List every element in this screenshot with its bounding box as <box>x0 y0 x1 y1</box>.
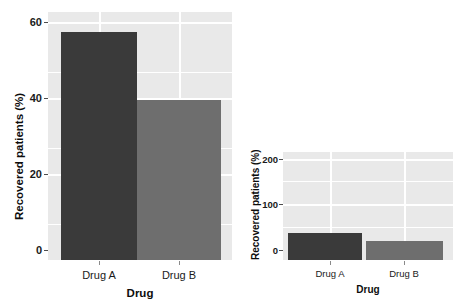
x-tick-mark-left-drug-a <box>99 261 100 265</box>
y-axis-title-left: Recovered patients (%) <box>14 93 26 220</box>
x-tick-mark-right-drug-b <box>404 261 405 265</box>
x-tick-label-right-drug-a: Drug A <box>298 269 362 279</box>
x-tick-mark-left-drug-b <box>179 261 180 265</box>
gridline-major-left-60 <box>48 22 232 24</box>
x-tick-label-left-drug-b: Drug B <box>144 270 214 281</box>
figure-two-bar-charts: Recovered patients (%) 60 40 20 0 <box>0 0 461 305</box>
x-axis-title-right: Drug <box>283 285 453 295</box>
x-tick-mark-right-drug-a <box>330 261 331 265</box>
gridline-minor-right-150 <box>283 181 453 182</box>
plot-panel-left <box>48 12 232 260</box>
gridline-major-right-200 <box>283 159 453 161</box>
gridline-major-right-100 <box>283 204 453 206</box>
plot-panel-right <box>283 152 453 260</box>
y-tick-label-left-40: 40 <box>18 93 42 104</box>
x-tick-label-left-drug-a: Drug A <box>64 270 134 281</box>
bar-right-drug-a[interactable] <box>288 233 362 260</box>
bar-chart-left: Recovered patients (%) 60 40 20 0 <box>0 0 240 305</box>
y-tick-label-right-200: 200 <box>254 155 278 165</box>
x-tick-label-right-drug-b: Drug B <box>372 269 436 279</box>
y-tick-label-right-0: 0 <box>254 246 278 256</box>
y-tick-label-left-0: 0 <box>18 245 42 256</box>
gridline-minor-right-50 <box>283 227 453 228</box>
bar-left-drug-a[interactable] <box>61 32 137 260</box>
y-tick-label-right-100: 100 <box>254 200 278 210</box>
y-tick-label-left-20: 20 <box>18 169 42 180</box>
x-axis-title-left: Drug <box>48 288 232 300</box>
bar-chart-right: Recovered patients (%) 200 100 0 D <box>240 0 461 305</box>
bar-left-drug-b[interactable] <box>137 100 221 260</box>
bar-right-drug-b[interactable] <box>366 241 443 260</box>
y-tick-label-left-60: 60 <box>18 17 42 28</box>
